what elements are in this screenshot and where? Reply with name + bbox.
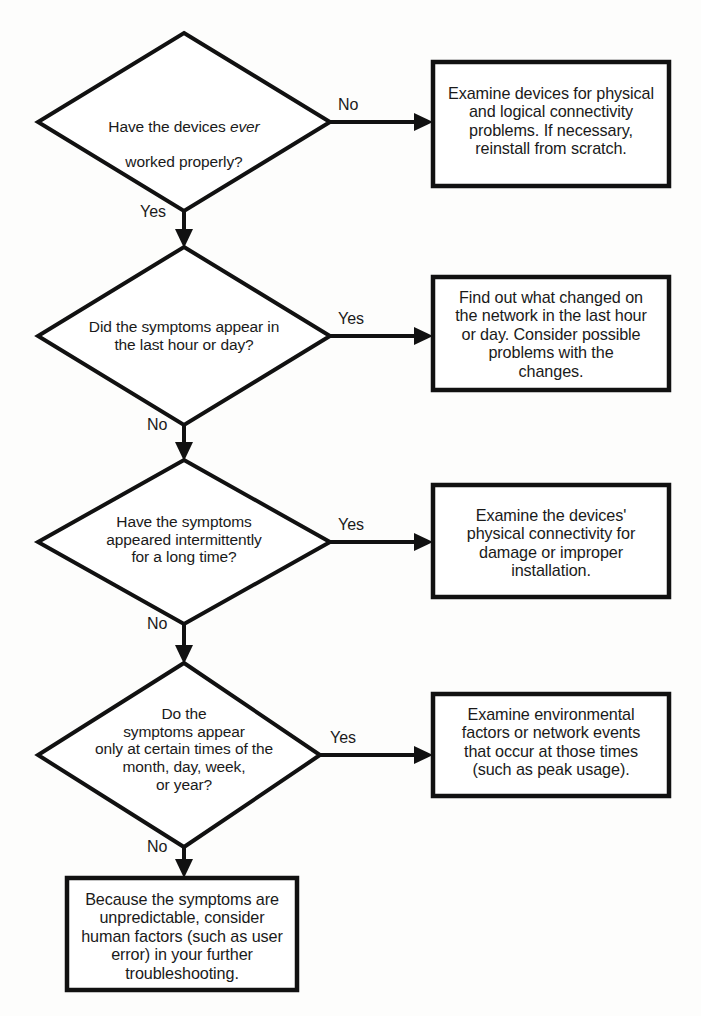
arrowhead-d2-to-d3 <box>175 442 193 461</box>
decision-node-3-shape <box>38 460 330 624</box>
arrowhead-d3-to-action3 <box>414 533 433 551</box>
flowchart-canvas: Have the devices ever worked properly? D… <box>0 0 701 1016</box>
arrowhead-d1-to-d2 <box>175 229 193 248</box>
arrowhead-d4-to-action5 <box>175 859 193 878</box>
decision-node-4-shape <box>38 663 320 847</box>
arrowhead-d2-to-action2 <box>414 327 433 345</box>
arrowhead-d1-to-action1 <box>414 113 433 131</box>
flowchart-graphics <box>0 0 701 1016</box>
arrowhead-d4-to-action4 <box>414 746 433 764</box>
action-box-2-shape <box>433 277 669 390</box>
action-box-3-shape <box>433 485 669 597</box>
arrowhead-d3-to-d4 <box>175 645 193 664</box>
action-box-1-shape <box>433 62 669 186</box>
action-box-5-shape <box>67 878 297 990</box>
action-box-4-shape <box>433 694 669 796</box>
decision-node-1-shape <box>38 33 330 211</box>
decision-node-2-shape <box>38 247 330 425</box>
